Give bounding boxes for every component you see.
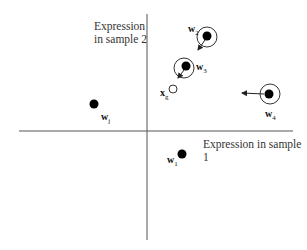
filled-dot-w1-icon: [178, 150, 187, 159]
x-axis-label: Expression in sample 1: [203, 138, 307, 164]
label-w2: w2: [188, 24, 199, 38]
point-w4: [242, 84, 280, 104]
label-w3: w3: [196, 62, 207, 76]
arrow-icon: [198, 40, 205, 50]
point-w2: [197, 27, 217, 50]
open-point-xg-icon: [169, 85, 177, 93]
filled-dot-icon: [265, 90, 274, 99]
diagram-canvas: Expression in sample 2 Expression in sam…: [0, 0, 307, 250]
arrow-icon: [242, 93, 264, 94]
filled-dot-icon: [182, 62, 191, 71]
point-w3: [174, 58, 194, 78]
label-wj: wj: [101, 112, 110, 126]
y-axis-label-line1: Expression: [94, 20, 147, 33]
y-axis-label: Expression in sample 2: [94, 20, 147, 46]
filled-dot-wj-icon: [90, 100, 99, 109]
label-w4: w4: [265, 109, 276, 123]
diagram-svg: [0, 0, 307, 250]
label-w1: w1: [167, 155, 178, 169]
y-axis-label-line2: in sample 2: [94, 33, 147, 46]
arrow-icon: [178, 70, 184, 78]
label-xg: xg: [160, 88, 169, 102]
filled-dot-icon: [203, 32, 212, 41]
